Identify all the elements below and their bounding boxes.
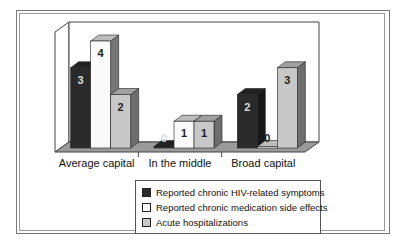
value-label: 3 — [78, 74, 84, 86]
legend: Reported chronic HIV-related symptoms Re… — [135, 180, 321, 234]
category-label: Broad capital — [231, 157, 295, 169]
value-label: 0 — [264, 132, 270, 144]
bar — [277, 62, 305, 148]
legend-label: Reported chronic medication side effects — [156, 202, 327, 213]
category-labels: Average capitalIn the middleBroad capita… — [59, 157, 296, 169]
value-label: 2 — [244, 101, 250, 113]
value-label: 4 — [98, 47, 105, 59]
value-label: 2 — [118, 101, 124, 113]
bar-front — [154, 147, 174, 149]
legend-swatch — [142, 218, 151, 227]
value-label: 1 — [201, 127, 207, 139]
legend-swatch — [142, 188, 151, 197]
bar-side — [131, 89, 139, 149]
value-label: 3 — [284, 74, 290, 86]
bar — [194, 115, 222, 148]
value-label: 1 — [181, 127, 187, 139]
bar-front — [257, 147, 277, 149]
legend-item: Acute hospitalizations — [142, 217, 248, 228]
side-wall — [55, 22, 69, 152]
legend-item: Reported chronic medication side effects — [142, 202, 327, 213]
category-label: In the middle — [149, 157, 212, 169]
legend-label: Reported chronic HIV-related symptoms — [156, 187, 324, 198]
category-label: Average capital — [59, 157, 135, 169]
bar — [111, 89, 139, 149]
legend-item: Reported chronic HIV-related symptoms — [142, 187, 324, 198]
bar — [237, 89, 265, 149]
legend-swatch — [142, 203, 151, 212]
value-label: 0 — [161, 132, 167, 144]
legend-label: Acute hospitalizations — [156, 217, 248, 228]
bar-side — [297, 62, 305, 148]
